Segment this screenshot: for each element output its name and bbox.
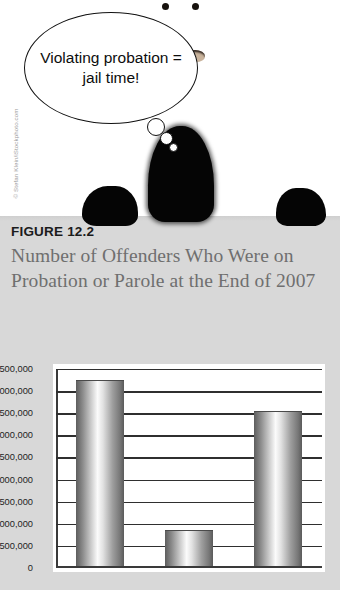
gridline — [56, 369, 322, 370]
y-tick-label: 4,500,000 — [0, 364, 33, 374]
bar — [76, 380, 124, 567]
illustration-area: © Stefan Klein/iStockphoto.com Violating… — [0, 0, 340, 232]
y-tick-label: 4,000,000 — [0, 386, 33, 396]
thought-bubble-text: Violating probation = jail time! — [25, 48, 197, 88]
masked-head — [148, 126, 214, 222]
bar — [254, 411, 302, 567]
figure-number: FIGURE 12.2 — [11, 224, 94, 239]
thought-bubble: Violating probation = jail time! — [24, 12, 198, 124]
plot-area: 4,500,0004,000,0003,500,0003,000,0002,50… — [56, 369, 322, 568]
y-tick-label: 1,000,000 — [0, 519, 33, 529]
x-axis — [56, 566, 322, 568]
left-gloved-hand — [82, 186, 138, 226]
bar — [165, 530, 213, 566]
y-tick-label: 0 — [0, 563, 33, 573]
figure-title: Number of Offenders Who Were on Probatio… — [11, 243, 335, 294]
y-axis — [56, 369, 58, 568]
y-tick-label: 2,000,000 — [0, 475, 33, 485]
right-gloved-hand — [276, 188, 326, 226]
thought-bubble-dot-small — [169, 143, 178, 152]
figure-screenshot: © Stefan Klein/iStockphoto.com Violating… — [0, 0, 340, 590]
y-tick-label: 2,500,000 — [0, 452, 33, 462]
left-pupil — [162, 3, 169, 10]
bar-chart: 4,500,0004,000,0003,500,0003,000,0002,50… — [0, 356, 340, 590]
right-pupil — [192, 3, 199, 10]
y-tick-label: 3,500,000 — [0, 408, 33, 418]
y-tick-label: 3,000,000 — [0, 430, 33, 440]
y-tick-label: 1,500,000 — [0, 497, 33, 507]
y-tick-label: 500,000 — [0, 541, 33, 551]
photo-credit: © Stefan Klein/iStockphoto.com — [12, 94, 19, 214]
